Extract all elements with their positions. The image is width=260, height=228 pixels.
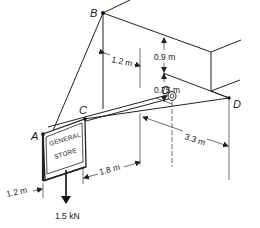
label-b: B [90,7,97,19]
dim-b-offset-label: 1.2 m [111,54,134,68]
label-d: D [233,98,241,110]
dim-sign-width [33,189,42,191]
dim-sign-width-label: 1.2 m [5,185,28,199]
point-d-marker [227,96,231,100]
dim-oc-length-label: 1.8 m [98,162,121,177]
load-label: 1.5 kN [55,211,80,221]
statics-diagram: GENERAL STORE B C A O D 1.2 m 0.9 m 0.75… [0,0,260,228]
dim-lower-vertical-label: 0.75 m [154,85,180,95]
point-b-marker [101,11,105,15]
label-a: A [30,130,38,142]
dim-upper-vertical-label: 0.9 m [154,52,175,62]
point-c-marker [83,117,87,121]
wall-outline [103,0,241,98]
dim-od-length-label: 3.3 m [183,131,206,147]
point-a-marker [41,132,45,136]
extension-lines [43,48,229,198]
label-c: C [79,104,87,116]
